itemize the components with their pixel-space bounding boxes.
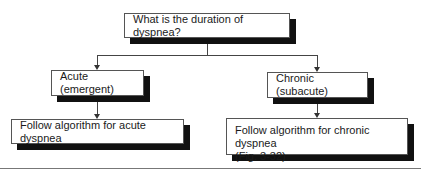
chronic-label: Chronic (subacute) (276, 72, 359, 98)
connector-acute-down (97, 102, 98, 114)
acute-node: Acute (emergent) (51, 70, 144, 96)
acute-label: Acute (emergent) (60, 70, 135, 96)
question-node: What is the duration of dyspnea? (124, 13, 290, 38)
chronic-algorithm-node: Follow algorithm for chronic dyspnea (Fi… (226, 118, 408, 155)
bottom-divider (0, 168, 421, 169)
question-label: What is the duration of dyspnea? (133, 13, 281, 39)
chronic-node: Chronic (subacute) (267, 72, 368, 98)
chronic-algorithm-figure-ref: (Fig. 3-32) (235, 150, 399, 163)
connector-root-down (207, 44, 208, 55)
connector-right-down (317, 55, 318, 67)
acute-algorithm-node: Follow algorithm for acute dyspnea (11, 119, 184, 144)
chronic-algorithm-label: Follow algorithm for chronic dyspnea (235, 124, 399, 150)
connector-chronic-down (317, 104, 318, 113)
connector-horizontal (97, 55, 318, 56)
acute-algorithm-label: Follow algorithm for acute dyspnea (20, 119, 175, 145)
